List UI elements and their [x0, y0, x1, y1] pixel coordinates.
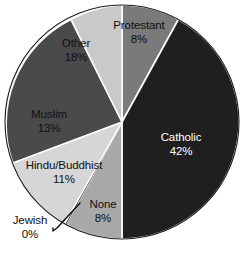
pie-label-jewish: Jewish 0% — [4, 213, 56, 241]
pie-label-none-name: None — [82, 197, 124, 211]
pie-label-other: Other 18% — [52, 36, 100, 64]
pie-label-protestant-value: 8% — [108, 32, 170, 46]
pie-label-catholic-value: 42% — [152, 144, 210, 158]
pie-label-hindu-buddhist-value: 11% — [16, 172, 112, 186]
pie-label-muslim-value: 13% — [21, 121, 77, 135]
pie-label-muslim: Muslim 13% — [21, 107, 77, 135]
pie-label-none: None 8% — [82, 197, 124, 225]
pie-label-protestant: Protestant 8% — [108, 18, 170, 46]
pie-label-hindu-buddhist: Hindu/Buddhist 11% — [16, 158, 112, 186]
pie-label-none-value: 8% — [82, 211, 124, 225]
pie-label-catholic: Catholic 42% — [152, 130, 210, 158]
pie-label-catholic-name: Catholic — [152, 130, 210, 144]
pie-label-muslim-name: Muslim — [21, 107, 77, 121]
pie-label-other-value: 18% — [52, 50, 100, 64]
pie-label-protestant-name: Protestant — [108, 18, 170, 32]
pie-label-jewish-value: 0% — [4, 227, 56, 241]
pie-label-hindu-buddhist-name: Hindu/Buddhist — [16, 158, 112, 172]
pie-chart: Protestant 8% Catholic 42% None 8% Jewis… — [0, 0, 246, 254]
pie-label-jewish-name: Jewish — [4, 213, 56, 227]
pie-label-other-name: Other — [52, 36, 100, 50]
